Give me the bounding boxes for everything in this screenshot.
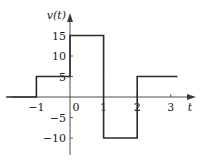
- y-axis-label: v(t): [47, 9, 66, 22]
- x-axis-label: t: [188, 101, 193, 114]
- y-axis-arrow-icon: [67, 13, 73, 22]
- x-axis-arrow-icon: [187, 94, 196, 100]
- x-tick-label: −1: [28, 101, 44, 114]
- x-tick-label: 3: [167, 101, 174, 114]
- y-tick-label: −5: [50, 112, 66, 125]
- y-tick-label: 10: [52, 50, 66, 63]
- x-tick-label: 0: [73, 101, 80, 114]
- y-tick-label: −10: [43, 132, 66, 145]
- step-signal-plot: −1012315105−5−10v(t)t: [0, 0, 203, 163]
- y-tick-label: 15: [52, 30, 66, 43]
- signal-line: [6, 36, 177, 139]
- chart-container: −1012315105−5−10v(t)t: [0, 0, 203, 163]
